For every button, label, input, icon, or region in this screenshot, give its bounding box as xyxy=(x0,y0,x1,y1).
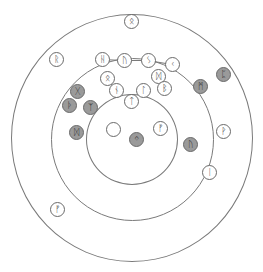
rune-node-ingwaz[interactable]: ᛜ xyxy=(129,132,144,147)
rune-node-hagalaz[interactable]: ᚺ xyxy=(95,52,110,67)
rune-glyph-icon: ᛁ xyxy=(207,168,212,177)
rune-node-thurisaz[interactable]: ᚦ xyxy=(62,98,77,113)
rune-glyph-icon: ᛟ xyxy=(129,17,134,26)
rune-glyph-icon: ᛟ xyxy=(105,74,110,83)
rune-node-berkano[interactable]: ᛒ xyxy=(157,81,172,96)
rune-node-uruz[interactable]: ᚢ xyxy=(117,53,132,68)
rune-node-laguz[interactable]: ᛚ xyxy=(136,83,151,98)
rune-node-mannaz[interactable]: ᛗ xyxy=(193,79,208,94)
rune-glyph-icon: ᛜ xyxy=(134,135,139,144)
rune-glyph-icon: ᛒ xyxy=(162,84,167,93)
rune-node-blank[interactable] xyxy=(106,122,121,137)
rune-node-algiz[interactable]: ᛉ xyxy=(83,100,98,115)
rune-node-gebo[interactable]: ᚷ xyxy=(70,84,85,99)
rune-glyph-icon: ᛞ xyxy=(74,128,79,137)
rune-glyph-icon: ᛚ xyxy=(141,86,146,95)
rune-node-sowilo[interactable]: ᛊ xyxy=(141,53,156,68)
rune-glyph-icon: ᚹ xyxy=(221,127,226,136)
rune-glyph-icon: ᚱ xyxy=(54,55,59,64)
rune-glyph-icon: ᛞ xyxy=(156,72,161,81)
rune-glyph-icon: ᛉ xyxy=(88,103,93,112)
rune-glyph-icon: ᚾ xyxy=(114,86,119,95)
rune-node-perthro[interactable]: ᛈ xyxy=(216,67,231,82)
rune-node-wunjo[interactable]: ᚹ xyxy=(216,124,231,139)
rune-glyph-icon: ᚠ xyxy=(158,124,163,133)
rune-glyph-icon: ᛊ xyxy=(146,56,151,65)
rune-node-raido[interactable]: ᚱ xyxy=(49,52,64,67)
rune-glyph-icon: ᚦ xyxy=(67,101,72,110)
rune-glyph-icon: ᚺ xyxy=(100,55,105,64)
rune-glyph-icon: ᛗ xyxy=(198,82,203,91)
rune-glyph-icon: ᚢ xyxy=(122,56,127,65)
rune-glyph-icon: ᚲ xyxy=(170,60,175,69)
rune-glyph-icon: ᛏ xyxy=(129,97,134,106)
rune-node-uruz-gray[interactable]: ᚢ xyxy=(183,137,198,152)
rune-node-fehu-inner[interactable]: ᚠ xyxy=(153,121,168,136)
rune-node-kenaz[interactable]: ᚲ xyxy=(165,57,180,72)
rune-node-tiwaz[interactable]: ᛏ xyxy=(124,94,139,109)
rune-node-fehu-outer[interactable]: ᚠ xyxy=(50,202,65,217)
rune-glyph-icon: ᚠ xyxy=(55,205,60,214)
rune-node-isa[interactable]: ᛁ xyxy=(202,165,217,180)
rune-glyph-icon: ᛈ xyxy=(221,70,226,79)
rune-glyph-icon: ᚷ xyxy=(75,87,80,96)
rune-node-othala-top[interactable]: ᛟ xyxy=(124,14,139,29)
rune-node-dagaz[interactable]: ᛞ xyxy=(69,125,84,140)
rune-node-nauthiz[interactable]: ᚾ xyxy=(109,83,124,98)
rune-glyph-icon: ᚢ xyxy=(188,140,193,149)
rune-diagram: ᛟᚱᚺᚢᛊᚲᛞᛟᚾᛚᛒᛏᚷᚦᛉᛗᛈᛞᛜᚠᚢᚹᛁᚠ xyxy=(0,0,263,272)
